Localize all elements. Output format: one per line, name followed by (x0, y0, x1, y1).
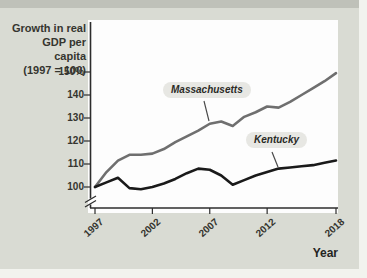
y-tick-label: 100 (40, 181, 84, 192)
y-tick-label: 120 (40, 135, 84, 146)
y-tick-label: 130 (40, 112, 84, 123)
x-tick-label: 2012 (243, 216, 277, 248)
x-axis-title: Year (300, 246, 338, 260)
y-tick-label: 150% (40, 66, 84, 77)
x-tick-label: 2002 (129, 216, 163, 248)
series-label-kentucky: Kentucky (246, 132, 307, 148)
plot-area (88, 20, 338, 213)
figure-frame: Growth in real GDP per capita (1997 = 10… (0, 0, 367, 278)
y-tick-label: 110 (40, 158, 84, 169)
series-label-massachusetts: Massachusetts (163, 82, 251, 98)
bottom-margin-strip (0, 269, 367, 278)
x-tick-label: 1997 (71, 216, 105, 248)
x-tick-label: 2007 (186, 216, 220, 248)
y-tick-label: 140 (40, 89, 84, 100)
x-tick-label: 2018 (312, 216, 346, 248)
top-border-strip (0, 0, 360, 8)
right-margin-strip (359, 0, 367, 278)
